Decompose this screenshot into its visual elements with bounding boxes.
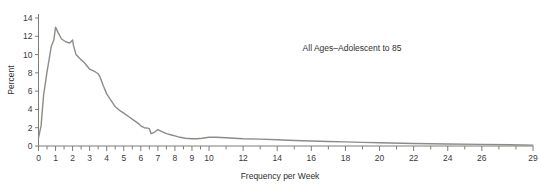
y-axis-tick-label: 14 bbox=[23, 13, 33, 23]
y-axis-title: Percent bbox=[6, 65, 16, 95]
x-axis-tick-label: 9 bbox=[190, 153, 195, 163]
x-axis-tick-label: 8 bbox=[173, 153, 178, 163]
x-axis-tick-label: 26 bbox=[477, 153, 487, 163]
x-axis-tick-label: 29 bbox=[528, 153, 538, 163]
x-axis-tick-label: 18 bbox=[341, 153, 351, 163]
x-axis-tick-label: 20 bbox=[375, 153, 385, 163]
x-axis-tick-label: 7 bbox=[155, 153, 160, 163]
x-axis-tick-label: 5 bbox=[121, 153, 126, 163]
x-axis-tick-label: 0 bbox=[36, 153, 41, 163]
x-axis-tick-label: 24 bbox=[443, 153, 453, 163]
y-axis-tick-label: 10 bbox=[23, 50, 33, 60]
y-axis-tick-label: 0 bbox=[28, 141, 33, 151]
x-axis-tick-label: 14 bbox=[272, 153, 282, 163]
chart-annotation: All Ages–Adolescent to 85 bbox=[303, 43, 402, 53]
x-axis-tick-label: 12 bbox=[238, 153, 248, 163]
x-axis-tick-label: 2 bbox=[70, 153, 75, 163]
y-axis-tick-label: 6 bbox=[28, 86, 33, 96]
x-axis-tick-label: 22 bbox=[409, 153, 419, 163]
x-axis-title: Frequency per Week bbox=[241, 171, 320, 181]
x-axis-tick-label: 10 bbox=[204, 153, 214, 163]
chart-figure: 02468101214 0123456789101214161820222426… bbox=[0, 0, 541, 193]
x-axis-tick-label: 6 bbox=[138, 153, 143, 163]
x-axis-tick-label: 3 bbox=[87, 153, 92, 163]
x-axis-tick-label: 16 bbox=[307, 153, 317, 163]
x-axis-tick-label: 1 bbox=[53, 153, 58, 163]
y-axis-tick-label: 2 bbox=[28, 123, 33, 133]
chart-background bbox=[0, 0, 541, 193]
y-axis-tick-label: 4 bbox=[28, 104, 33, 114]
y-axis-tick-label: 8 bbox=[28, 68, 33, 78]
y-axis-tick-label: 12 bbox=[23, 31, 33, 41]
x-axis-tick-label: 4 bbox=[104, 153, 109, 163]
line-chart-canvas: 02468101214 0123456789101214161820222426… bbox=[0, 0, 541, 193]
